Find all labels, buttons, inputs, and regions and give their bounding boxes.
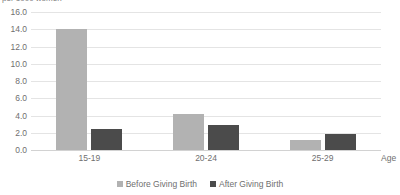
y-axis-tick-label: 4.0	[15, 111, 27, 120]
legend-item-after[interactable]: After Giving Birth	[210, 179, 283, 189]
bar-after-20-24[interactable]	[208, 125, 239, 150]
y-axis-tick-label: 2.0	[15, 128, 27, 137]
legend-item-before[interactable]: Before Giving Birth	[117, 179, 197, 189]
legend-label-after: After Giving Birth	[219, 179, 283, 189]
chart-legend: Before Giving Birth After Giving Birth	[0, 179, 400, 189]
bar-group	[264, 12, 381, 150]
y-axis-tick-labels: 16.014.012.010.08.06.04.02.00.0	[0, 12, 27, 150]
bar-before-20-24[interactable]	[173, 114, 204, 150]
x-axis-title: Age	[381, 153, 396, 164]
bar-before-15-19[interactable]	[56, 29, 87, 150]
x-axis-tick-label: 15-19	[31, 153, 148, 164]
bar-groups	[31, 12, 381, 150]
x-axis-tick-labels: 15-1920-2425-29	[31, 153, 381, 164]
bar-before-25-29[interactable]	[290, 140, 321, 150]
legend-swatch-before-icon	[117, 181, 123, 187]
y-axis-tick-label: 6.0	[15, 94, 27, 103]
y-axis-tick-label: 8.0	[15, 77, 27, 86]
x-axis-tick-label: 25-29	[264, 153, 381, 164]
y-axis-tick-label: 0.0	[15, 146, 27, 155]
bar-chart: per 1000 women 16.014.012.010.08.06.04.0…	[0, 0, 400, 195]
x-axis-tick-label: 20-24	[148, 153, 265, 164]
bar-group	[31, 12, 148, 150]
y-axis-tick-label: 14.0	[10, 25, 27, 34]
y-axis-tick-label: 10.0	[10, 59, 27, 68]
plot-area	[31, 12, 381, 150]
y-axis-tick-label: 16.0	[10, 8, 27, 17]
bar-group	[148, 12, 265, 150]
bar-after-25-29[interactable]	[325, 134, 356, 150]
legend-swatch-after-icon	[210, 181, 216, 187]
bar-after-15-19[interactable]	[91, 129, 122, 150]
legend-label-before: Before Giving Birth	[126, 179, 197, 189]
chart-caption: per 1000 women	[2, 0, 62, 3]
gridline	[31, 150, 381, 151]
y-axis-tick-label: 12.0	[10, 42, 27, 51]
